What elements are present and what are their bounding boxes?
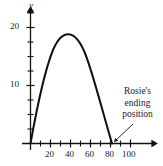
chart-plot-area (0, 0, 163, 166)
annotation-arrow (115, 124, 134, 142)
y-tick-label-10: 10 (10, 80, 19, 89)
annotation-line-1: Rosie's (112, 86, 163, 98)
chart-figure: y 20 10 20 40 60 80 100 Rosie's ending p… (0, 0, 163, 166)
x-tick-label-20: 20 (45, 150, 54, 159)
annotation-line-2: ending (112, 98, 163, 110)
x-tick-label-80: 80 (105, 150, 114, 159)
x-tick-label-40: 40 (65, 150, 74, 159)
annotation-rosies-ending-position: Rosie's ending position (112, 86, 163, 121)
data-curve (31, 34, 113, 143)
y-tick-label-20: 20 (10, 22, 19, 31)
y-axis-label: y (29, 1, 33, 10)
x-tick-label-60: 60 (85, 150, 94, 159)
x-tick-label-100: 100 (122, 150, 136, 159)
annotation-line-3: position (112, 109, 163, 121)
